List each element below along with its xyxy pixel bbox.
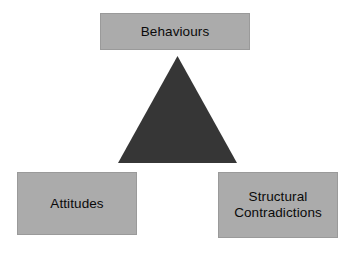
center-triangle-svg	[110, 50, 246, 170]
node-label-structural-contradictions: Structural Contradictions	[230, 189, 326, 221]
center-triangle-shape	[118, 56, 237, 163]
node-label-behaviours: Behaviours	[137, 24, 214, 40]
diagram-canvas: Behaviours Attitudes Structural Contradi…	[0, 0, 354, 256]
node-box-attitudes[interactable]: Attitudes	[17, 172, 137, 235]
center-triangle	[110, 50, 246, 170]
node-box-behaviours[interactable]: Behaviours	[100, 13, 250, 50]
node-box-structural-contradictions[interactable]: Structural Contradictions	[218, 172, 338, 238]
node-label-attitudes: Attitudes	[46, 196, 107, 212]
